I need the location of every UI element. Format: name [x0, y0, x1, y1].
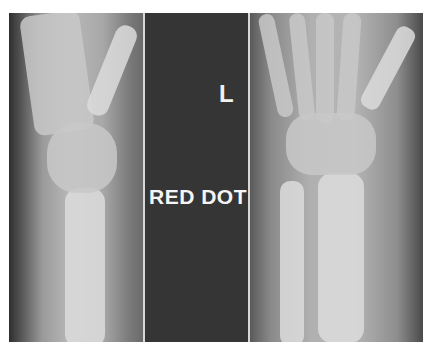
carpal-bones — [286, 113, 376, 175]
radius-shaft — [318, 173, 364, 342]
metacarpal-3 — [316, 13, 334, 123]
lateral-view-panel — [9, 13, 143, 342]
pa-view-panel — [250, 13, 423, 342]
side-marker: L — [219, 80, 234, 108]
metacarpal-2 — [336, 13, 361, 121]
ulna-shaft — [280, 181, 304, 342]
red-dot-marker: RED DOT — [149, 185, 247, 209]
radius-shaft — [65, 188, 105, 342]
xray-image: L RED DOT — [9, 13, 423, 342]
thumb-metacarpal — [84, 22, 140, 118]
metacarpals — [19, 13, 95, 137]
marker-strip: L — [143, 13, 250, 342]
thumb-metacarpal — [358, 24, 418, 113]
